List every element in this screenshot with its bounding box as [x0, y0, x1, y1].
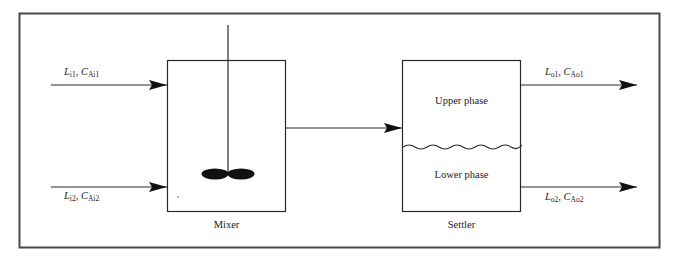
lower-phase-label: Lower phase: [402, 169, 521, 180]
conc-symbol: C: [81, 66, 88, 77]
mixer-vessel: [168, 61, 286, 212]
settler-label: Settler: [402, 219, 521, 230]
speck: [177, 196, 179, 198]
conc-subscript: Ai2: [88, 194, 99, 203]
conc-subscript: Ao2: [571, 195, 584, 204]
inlet-1-label: Li1, CAi1: [64, 66, 99, 79]
conc-symbol: C: [564, 191, 571, 202]
inlet-2-label: Li2, CAi2: [64, 190, 99, 203]
outlet-1-label: Lo1, CAo1: [545, 66, 584, 79]
diagram-canvas: [0, 0, 675, 259]
settler-vessel: [403, 61, 521, 212]
conc-subscript: Ai1: [88, 70, 99, 79]
upper-phase-label: Upper phase: [402, 95, 521, 106]
mixer-label: Mixer: [167, 219, 286, 230]
outlet-2-label: Lo2, CAo2: [545, 191, 584, 204]
conc-symbol: C: [564, 66, 571, 77]
conc-symbol: C: [81, 190, 88, 201]
phase-interface-wave: [403, 145, 522, 149]
conc-subscript: Ao1: [571, 70, 584, 79]
outer-frame: [20, 14, 660, 248]
